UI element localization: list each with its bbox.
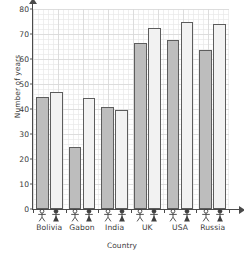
plot-area: 01020304050607080 bbox=[33, 9, 229, 209]
bar-uk-female bbox=[134, 43, 147, 209]
y-axis-tick-label: 50 bbox=[19, 80, 29, 89]
male-stick-figure-icon bbox=[116, 209, 127, 222]
bar-bolivia-male bbox=[50, 92, 63, 210]
bar-chart: Number of years Country 0102030405060708… bbox=[0, 0, 244, 258]
country-label-russia: Russia bbox=[200, 223, 225, 232]
y-axis-tick-label: 10 bbox=[19, 180, 29, 189]
female-stick-figure-icon bbox=[135, 209, 146, 222]
y-axis-tick-label: 60 bbox=[19, 55, 29, 64]
country-label-bolivia: Bolivia bbox=[36, 223, 62, 232]
female-stick-figure-icon bbox=[102, 209, 113, 222]
male-stick-figure-icon bbox=[51, 209, 62, 222]
bar-russia-male bbox=[213, 24, 226, 209]
bar-usa-female bbox=[167, 40, 180, 209]
female-stick-figure-icon bbox=[37, 209, 48, 222]
x-axis-arrow-icon bbox=[239, 206, 244, 214]
male-stick-figure-icon bbox=[214, 209, 225, 222]
bar-russia-female bbox=[199, 50, 212, 209]
y-axis-tick-label: 40 bbox=[19, 105, 29, 114]
x-axis-title: Country bbox=[0, 241, 244, 250]
male-stick-figure-icon bbox=[84, 209, 95, 222]
bar-gabon-male bbox=[83, 98, 96, 209]
country-label-india: India bbox=[105, 223, 124, 232]
male-stick-figure-icon bbox=[182, 209, 193, 222]
female-stick-figure-icon bbox=[168, 209, 179, 222]
bar-uk-male bbox=[148, 28, 161, 209]
y-axis-tick-label: 80 bbox=[19, 5, 29, 14]
y-axis-tick-label: 30 bbox=[19, 130, 29, 139]
country-label-usa: USA bbox=[172, 223, 188, 232]
bar-usa-male bbox=[181, 22, 194, 210]
female-stick-figure-icon bbox=[200, 209, 211, 222]
y-axis-line bbox=[32, 2, 33, 209]
bar-india-male bbox=[115, 110, 128, 209]
y-axis-arrow-icon bbox=[29, 0, 37, 4]
bar-india-female bbox=[101, 107, 114, 210]
country-label-uk: UK bbox=[142, 223, 153, 232]
y-axis-tick-label: 20 bbox=[19, 155, 29, 164]
y-axis-tick-label: 0 bbox=[24, 205, 29, 214]
male-stick-figure-icon bbox=[149, 209, 160, 222]
bar-bolivia-female bbox=[36, 97, 49, 210]
gender-icons-row bbox=[33, 209, 229, 223]
country-labels-row: BoliviaGabonIndiaUKUSARussia bbox=[33, 223, 229, 235]
y-axis-tick-label: 70 bbox=[19, 30, 29, 39]
female-stick-figure-icon bbox=[70, 209, 81, 222]
bar-gabon-female bbox=[69, 147, 82, 210]
country-label-gabon: Gabon bbox=[69, 223, 94, 232]
